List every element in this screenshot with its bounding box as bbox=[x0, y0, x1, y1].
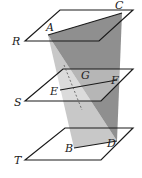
label-b: B bbox=[64, 142, 73, 155]
label-plane-r: R bbox=[11, 35, 20, 48]
label-a: A bbox=[45, 21, 54, 34]
label-c: C bbox=[115, 0, 124, 12]
label-d: D bbox=[106, 137, 116, 150]
label-plane-t: T bbox=[14, 154, 23, 167]
label-e: E bbox=[49, 85, 58, 98]
label-f: F bbox=[110, 74, 119, 87]
label-g: G bbox=[81, 69, 90, 82]
label-plane-s: S bbox=[14, 96, 22, 109]
geometry-diagram: A B C D E F G R S T bbox=[0, 0, 142, 178]
